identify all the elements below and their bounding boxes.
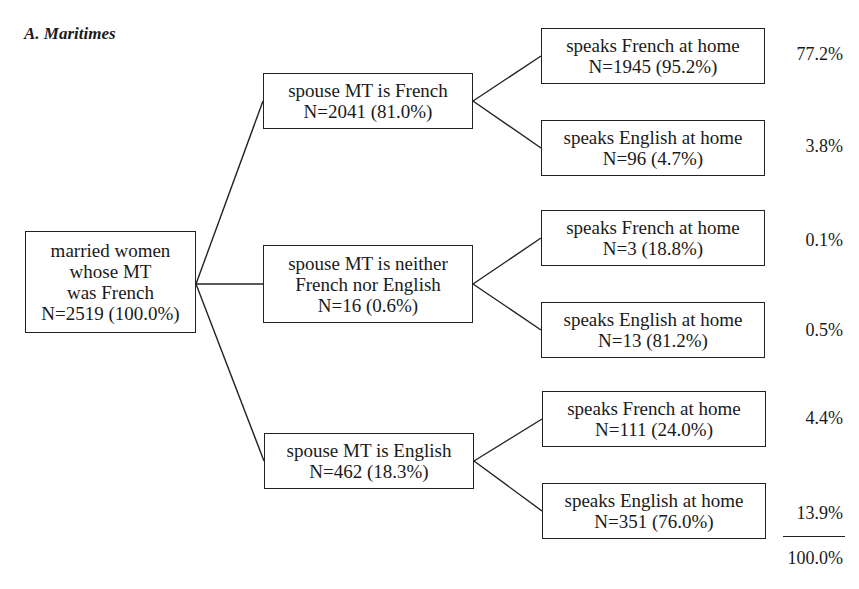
leaf-french-speaks-french: speaks French at home N=1945 (95.2%) (541, 28, 765, 84)
share-3: 0.1% (763, 230, 843, 251)
node-spouse-french: spouse MT is French N=2041 (81.0%) (263, 73, 473, 129)
leaf-count: N=96 (4.7%) (603, 148, 703, 169)
node-label: spouse MT is neither (288, 253, 448, 274)
share-1: 77.2% (763, 44, 843, 65)
leaf-neither-speaks-french: speaks French at home N=3 (18.8%) (541, 210, 765, 266)
root-line-2: whose MT (70, 261, 152, 282)
root-node: married women whose MT was French N=2519… (25, 231, 196, 333)
leaf-count: N=351 (76.0%) (594, 511, 713, 532)
leaf-french-speaks-english: speaks English at home N=96 (4.7%) (541, 120, 765, 176)
leaf-label: speaks English at home (564, 127, 743, 148)
share-6: 13.9% (763, 503, 843, 524)
leaf-label: speaks English at home (564, 309, 743, 330)
leaf-english-speaks-english: speaks English at home N=351 (76.0%) (542, 483, 766, 539)
edge-french-speaksenglish (473, 101, 541, 148)
edge-neither-speaksfrench (473, 238, 541, 284)
node-count: N=2041 (81.0%) (304, 101, 433, 122)
node-spouse-english: spouse MT is English N=462 (18.3%) (264, 433, 474, 489)
node-label: spouse MT is French (288, 80, 448, 101)
leaf-label: speaks French at home (567, 398, 741, 419)
node-count: N=16 (0.6%) (318, 295, 418, 316)
leaf-count: N=1945 (95.2%) (589, 56, 718, 77)
share-4: 0.5% (763, 320, 843, 341)
edge-root-french (196, 101, 263, 284)
leaf-label: speaks English at home (565, 490, 744, 511)
share-2: 3.8% (763, 136, 843, 157)
leaf-count: N=3 (18.8%) (603, 238, 703, 259)
leaf-label: speaks French at home (566, 217, 740, 238)
leaf-count: N=111 (24.0%) (595, 419, 713, 440)
edge-french-speaksfrench (473, 56, 541, 101)
edge-english-speaksenglish (474, 461, 542, 511)
node-count: N=462 (18.3%) (309, 461, 428, 482)
root-line-3: was French (67, 282, 154, 303)
root-line-1: married women (51, 240, 171, 261)
leaf-count: N=13 (81.2%) (598, 330, 708, 351)
share-5: 4.4% (763, 408, 843, 429)
edge-english-speaksfrench (474, 419, 542, 461)
node-label: spouse MT is English (287, 440, 452, 461)
node-label-2: French nor English (295, 274, 441, 295)
leaf-label: speaks French at home (566, 35, 740, 56)
node-spouse-neither: spouse MT is neither French nor English … (263, 245, 473, 323)
edge-neither-speaksenglish (473, 284, 541, 330)
leaf-neither-speaks-english: speaks English at home N=13 (81.2%) (541, 302, 765, 358)
edge-root-english (196, 284, 264, 461)
total-share: 100.0% (763, 548, 843, 569)
leaf-english-speaks-french: speaks French at home N=111 (24.0%) (542, 391, 766, 447)
root-line-4: N=2519 (100.0%) (41, 303, 179, 324)
total-separator (783, 536, 845, 537)
